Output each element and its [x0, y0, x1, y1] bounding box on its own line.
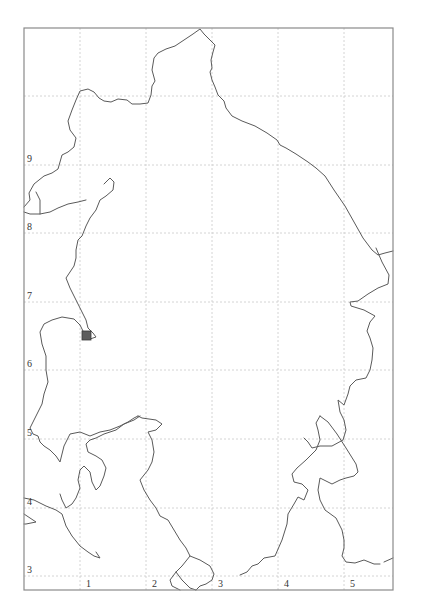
location-marker[interactable] [82, 331, 91, 340]
coastline-east [304, 248, 389, 448]
coastline-west-inlet [66, 178, 114, 339]
grid-lines [24, 28, 393, 590]
coastline-southwest-arm [24, 498, 100, 558]
axis-labels: 123459876543 [27, 153, 355, 589]
column-label: 1 [86, 578, 91, 589]
row-label: 7 [27, 290, 32, 301]
row-label: 3 [27, 564, 32, 575]
coastline-southwest-hook [24, 514, 36, 524]
coastline-east-peninsula [240, 416, 320, 575]
row-label: 9 [27, 153, 32, 164]
row-label: 4 [27, 496, 32, 507]
column-label: 4 [284, 578, 289, 589]
row-label: 5 [27, 427, 32, 438]
map-frame [24, 28, 393, 590]
coastlines [24, 29, 393, 590]
column-label: 5 [350, 578, 355, 589]
row-label: 8 [27, 221, 32, 232]
row-label: 6 [27, 358, 32, 369]
column-label: 3 [218, 578, 223, 589]
coastline-bay-east [318, 416, 380, 564]
coastline-south-bottom [190, 556, 214, 590]
coastline-southeast-tip [384, 558, 393, 562]
coastline-south-bottom-2 [176, 572, 196, 590]
coastline-south-central [138, 416, 190, 590]
coastline-north-east [24, 29, 393, 255]
coastline-west-north [24, 200, 86, 214]
coastline-west-stub [36, 192, 40, 214]
column-label: 2 [152, 578, 157, 589]
map-canvas: 123459876543 [0, 0, 421, 612]
coastline-south-peninsula [60, 416, 140, 508]
